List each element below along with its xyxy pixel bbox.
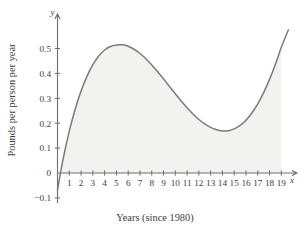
x-tick-label: 12 xyxy=(194,178,204,188)
x-tick-label: 19 xyxy=(277,178,287,188)
x-axis-letter: x xyxy=(289,175,294,185)
y-tick-label: 0.4 xyxy=(40,69,52,79)
y-tick-label: 0.2 xyxy=(40,119,52,129)
x-tick-label: 8 xyxy=(149,178,154,188)
x-tick-label: 10 xyxy=(171,178,181,188)
y-tick-label: 0.1 xyxy=(40,143,52,153)
y-tick-label: 0.3 xyxy=(40,94,52,104)
y-tick-label: 0.5 xyxy=(40,44,52,54)
chart-canvas: −0.100.10.20.30.40.5 1234567891011121314… xyxy=(0,0,307,245)
x-tick-label: 3 xyxy=(91,178,96,188)
x-tick-label: 14 xyxy=(218,178,228,188)
x-tick-labels: 12345678910111213141516171819 xyxy=(67,178,286,188)
x-tick-label: 17 xyxy=(253,178,263,188)
y-tick-label: −0.1 xyxy=(34,193,51,203)
x-tick-label: 13 xyxy=(206,178,216,188)
y-axis-letter: y xyxy=(50,7,55,17)
x-tick-label: 4 xyxy=(102,178,107,188)
y-axis-title: Pounds per person per year xyxy=(6,43,17,157)
x-tick-label: 1 xyxy=(67,178,72,188)
x-tick-label: 11 xyxy=(183,178,192,188)
chart-figure: −0.100.10.20.30.40.5 1234567891011121314… xyxy=(0,0,307,245)
y-tick-label: 0 xyxy=(46,168,51,178)
x-tick-label: 7 xyxy=(138,178,143,188)
x-tick-label: 18 xyxy=(265,178,275,188)
x-tick-label: 15 xyxy=(230,178,240,188)
x-tick-label: 5 xyxy=(114,178,119,188)
y-axis-line xyxy=(55,14,60,203)
x-tick-label: 9 xyxy=(161,178,166,188)
y-tick-labels: −0.100.10.20.30.40.5 xyxy=(34,44,51,203)
x-tick-label: 16 xyxy=(241,178,251,188)
x-tick-label: 2 xyxy=(79,178,84,188)
x-axis-title: Years (since 1980) xyxy=(116,212,193,224)
x-tick-label: 6 xyxy=(126,178,131,188)
